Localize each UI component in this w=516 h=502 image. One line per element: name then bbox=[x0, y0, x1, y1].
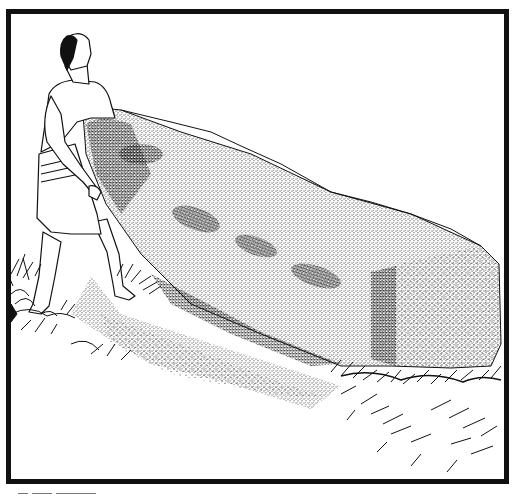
grass-right bbox=[331, 360, 501, 472]
artist-signature bbox=[18, 490, 98, 498]
illustration-frame bbox=[6, 9, 509, 484]
illustration-canvas bbox=[11, 14, 504, 479]
